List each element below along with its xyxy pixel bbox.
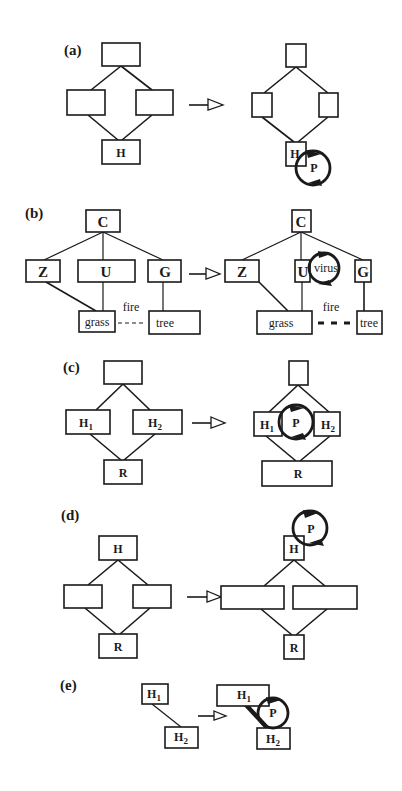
panel-b: (b) C Z U G grass tree fire <box>25 205 382 334</box>
before-graph: H1 H2 <box>142 684 198 748</box>
node-r-label: R <box>294 467 303 481</box>
node-r-label: R <box>114 640 123 654</box>
transition-arrow <box>198 711 226 720</box>
node-c-label: C <box>98 214 109 230</box>
node-u-label: U <box>101 264 112 280</box>
edge <box>85 608 116 634</box>
node-left <box>252 93 272 117</box>
edge <box>123 384 150 410</box>
node-r-label: R <box>119 466 128 480</box>
edge <box>294 560 325 586</box>
before-graph: C Z U G grass tree fire <box>26 210 200 334</box>
edge <box>300 436 330 461</box>
node-tree-label: tree <box>360 316 378 330</box>
node-top <box>289 361 308 385</box>
node-z-label: Z <box>237 264 247 280</box>
panel-a: (a) H H <box>64 42 338 186</box>
before-graph: H R <box>64 536 171 658</box>
panel-d: (d) H R H R <box>61 507 357 659</box>
edge <box>118 560 148 585</box>
cycle-label: P <box>310 161 317 175</box>
edge <box>103 232 163 260</box>
node-right <box>133 585 171 608</box>
edge <box>88 115 118 140</box>
panel-label: (a) <box>64 42 82 59</box>
edge <box>46 282 96 311</box>
node-u-label: U <box>298 264 309 280</box>
edge <box>121 66 152 90</box>
edge <box>264 560 294 586</box>
after-graph: H1 H2 P <box>217 685 290 749</box>
edge <box>90 434 121 460</box>
cycle-label: P <box>269 706 276 720</box>
node-h-label: H <box>113 542 123 556</box>
node-top <box>286 44 306 67</box>
edge <box>296 609 327 635</box>
node-g-label: G <box>357 264 369 280</box>
after-graph: H P <box>252 44 338 186</box>
before-graph: H1 H2 R <box>66 361 182 484</box>
node-grass-label: grass <box>85 315 110 329</box>
panel-c: (c) H1 H2 R H1 H <box>63 359 340 486</box>
edge <box>262 117 294 142</box>
transition-arrow <box>189 99 223 110</box>
node-right <box>293 586 357 609</box>
transition-arrow <box>189 268 220 279</box>
fire-label: fire <box>123 300 140 314</box>
panel-label: (b) <box>25 205 43 222</box>
edge <box>296 67 328 93</box>
node-r-label: R <box>290 641 299 655</box>
node-right <box>136 90 173 115</box>
edge <box>152 704 181 727</box>
node-c-label: C <box>296 214 307 230</box>
node-left <box>67 90 105 115</box>
after-graph: C Z U G grass tree fire virus <box>225 210 382 334</box>
edge <box>259 282 288 311</box>
edge <box>122 115 152 140</box>
diagram-canvas: (a) H H <box>0 0 402 791</box>
node-z-label: Z <box>38 264 48 280</box>
node-left <box>64 585 102 608</box>
edge <box>298 117 328 142</box>
before-graph: H <box>67 43 173 164</box>
edge <box>242 232 301 260</box>
panel-label: (d) <box>61 507 79 524</box>
panel-label: (c) <box>63 359 80 376</box>
cycle-label: P <box>292 416 299 430</box>
edge <box>264 67 296 93</box>
node-h-label: H <box>116 146 126 160</box>
edge <box>261 609 292 635</box>
node-h-label: H <box>289 542 299 556</box>
node-g-label: G <box>159 264 171 280</box>
node-top <box>102 43 140 66</box>
transition-arrow <box>187 591 221 602</box>
edge <box>91 66 121 90</box>
edge <box>96 384 123 410</box>
fire-label: fire <box>323 300 340 314</box>
node-top <box>104 361 142 384</box>
after-graph: H R P <box>221 510 357 659</box>
cycle-label: P <box>307 522 314 536</box>
node-left <box>221 586 284 609</box>
edge <box>124 434 155 460</box>
panel-label: (e) <box>60 677 77 694</box>
edge <box>44 232 103 260</box>
node-tree-label: tree <box>156 316 174 330</box>
panel-e: (e) H1 H2 H1 H2 P <box>60 677 290 749</box>
edge <box>120 608 150 634</box>
cycle-label: virus <box>314 261 338 275</box>
node-grass-label: grass <box>269 316 294 330</box>
after-graph: H1 H2 R P <box>254 361 340 486</box>
edge <box>88 560 118 585</box>
node-right <box>319 93 338 117</box>
transition-arrow <box>192 417 225 428</box>
